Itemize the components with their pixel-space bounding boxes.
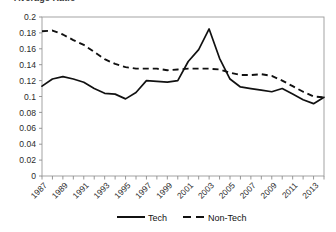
line-chart-svg: 00.020.040.060.080.10.120.140.160.180.2 … xyxy=(0,0,336,232)
plot-border xyxy=(42,17,324,176)
x-tick-label: 1995 xyxy=(112,180,132,200)
chart-container: Average Ratio 00.020.040.060.080.10.120.… xyxy=(0,0,336,232)
x-tick-label: 1989 xyxy=(50,180,70,200)
y-tick-label: 0.02 xyxy=(19,155,36,165)
x-tick-label: 1999 xyxy=(154,180,174,200)
y-tick-label: 0.18 xyxy=(19,28,36,38)
y-axis-labels: 00.020.040.060.080.10.120.140.160.180.2 xyxy=(19,12,36,181)
y-tick-label: 0.08 xyxy=(19,108,36,118)
chart-title-clipped: Average Ratio xyxy=(14,0,76,3)
x-tick-label: 2003 xyxy=(196,180,216,200)
plot-area-frame xyxy=(42,17,324,176)
legend-label-tech: Tech xyxy=(148,213,167,223)
y-tick-label: 0.06 xyxy=(19,123,36,133)
x-tick-label: 2007 xyxy=(238,180,258,200)
x-tick-label: 1997 xyxy=(133,180,153,200)
x-tick-label: 1987 xyxy=(29,180,49,200)
y-tick-label: 0.14 xyxy=(19,60,36,70)
series-line-tech xyxy=(42,29,324,104)
x-tick-label: 2011 xyxy=(280,180,300,200)
x-tick-label: 2013 xyxy=(300,180,320,200)
x-tick-label: 2009 xyxy=(258,180,278,200)
x-tick-label: 2005 xyxy=(217,180,237,200)
y-tick-label: 0 xyxy=(31,171,36,181)
series-line-non-tech xyxy=(42,31,324,98)
y-tick-label: 0.12 xyxy=(19,76,36,86)
legend-label-non-tech: Non-Tech xyxy=(208,213,247,223)
y-tick-label: 0.2 xyxy=(24,12,36,22)
y-tick-label: 0.04 xyxy=(19,139,36,149)
x-tick-label: 1993 xyxy=(91,180,111,200)
y-tick-label: 0.16 xyxy=(19,44,36,54)
y-tick-label: 0.1 xyxy=(24,92,36,102)
legend: Tech Non-Tech xyxy=(117,213,247,223)
x-tick-label: 1991 xyxy=(70,180,90,200)
x-axis-ticks xyxy=(42,176,324,180)
x-axis-labels: 1987198919911993199519971999200120032005… xyxy=(29,180,321,200)
x-tick-label: 2001 xyxy=(175,180,195,200)
